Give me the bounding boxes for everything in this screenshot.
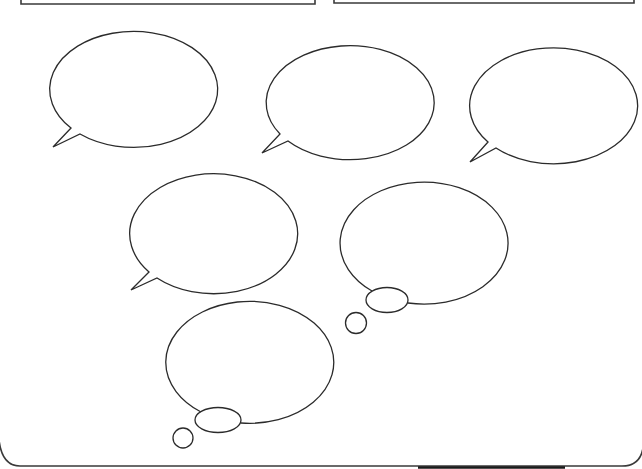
speech-bubble-2[interactable] bbox=[262, 46, 434, 160]
speech-bubble-3[interactable] bbox=[470, 48, 638, 164]
thought-bubble-2-puff-large bbox=[195, 408, 241, 433]
bubbles-canvas bbox=[0, 0, 642, 469]
page-frame bbox=[0, 440, 642, 468]
thought-bubble-2[interactable] bbox=[166, 301, 334, 448]
header-box-left[interactable] bbox=[21, 0, 315, 4]
speech-bubble-4[interactable] bbox=[130, 174, 298, 294]
worksheet-page bbox=[0, 0, 642, 469]
header-box-right[interactable] bbox=[334, 0, 634, 3]
thought-bubble-1-puff-large bbox=[366, 288, 408, 313]
speech-bubble-1[interactable] bbox=[50, 31, 218, 147]
thought-bubble-2-puff-small bbox=[173, 428, 193, 448]
thought-bubble-1[interactable] bbox=[340, 182, 508, 333]
thought-bubble-1-puff-small bbox=[346, 313, 367, 334]
